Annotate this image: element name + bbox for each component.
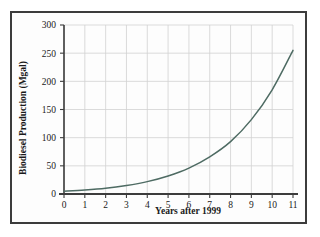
x-tick-label: 2 xyxy=(103,200,108,210)
x-tick-label: 11 xyxy=(288,200,297,210)
x-axis-title: Years after 1999 xyxy=(155,206,221,216)
y-tick-label: 50 xyxy=(47,161,57,171)
y-tick-label: 150 xyxy=(42,105,57,115)
x-tick-label: 10 xyxy=(267,200,277,210)
x-tick-label: 0 xyxy=(62,200,67,210)
x-tick-label: 9 xyxy=(249,200,254,210)
x-tick-label: 8 xyxy=(228,200,233,210)
chart-figure: 01234567891011 050100150200250300 Years … xyxy=(10,11,307,224)
y-tick-label: 250 xyxy=(42,49,57,59)
x-tick-label: 4 xyxy=(145,200,150,210)
x-tick-label: 1 xyxy=(82,200,87,210)
y-tick-label: 300 xyxy=(42,20,57,30)
y-tick-label: 0 xyxy=(51,189,56,199)
y-axis-title: Biodiesel Production (Mgal) xyxy=(18,61,29,175)
x-tick-label: 3 xyxy=(124,200,129,210)
y-tick-label: 200 xyxy=(42,77,57,87)
biodiesel-production-line-chart: 01234567891011 050100150200250300 Years … xyxy=(12,13,305,222)
y-tick-label: 100 xyxy=(42,133,57,143)
